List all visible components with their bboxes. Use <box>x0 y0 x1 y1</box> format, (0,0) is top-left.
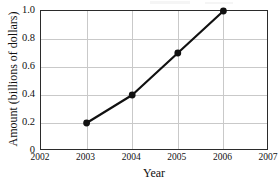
scan-artifact <box>150 1 190 4</box>
data-series-layer <box>41 11 269 151</box>
y-axis-title: Amount (billions of dollars) <box>7 3 19 155</box>
x-axis-tick-label: 2003 <box>76 153 95 163</box>
x-axis-tick-label: 2007 <box>259 153 278 163</box>
plot-area <box>40 10 268 150</box>
data-point-marker <box>220 8 227 15</box>
data-point-marker <box>174 50 181 57</box>
data-point-marker <box>129 92 136 99</box>
x-axis-tick-label: 2002 <box>31 153 50 163</box>
x-axis-title: Year <box>40 167 268 179</box>
x-axis-tick-label: 2005 <box>167 153 186 163</box>
chart-screenshot: 00.20.40.60.81.0 20022003200420052006200… <box>0 0 280 185</box>
series-line <box>87 11 224 123</box>
x-axis-tick-label: 2006 <box>213 153 232 163</box>
x-axis-tick-label: 2004 <box>122 153 141 163</box>
data-point-marker <box>83 120 90 127</box>
scan-artifact <box>205 2 233 4</box>
series-markers <box>83 8 227 127</box>
